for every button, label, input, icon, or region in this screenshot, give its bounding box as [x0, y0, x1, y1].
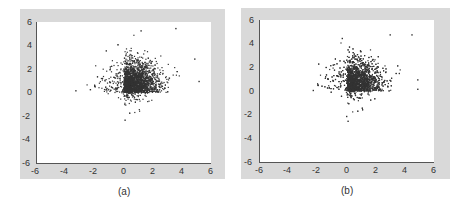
scatter-points — [0, 0, 465, 207]
